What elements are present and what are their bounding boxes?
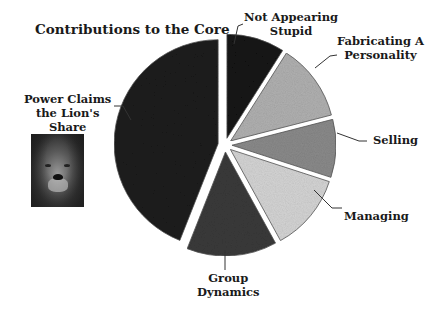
label-line: Stupid: [244, 24, 338, 38]
label-group-dynamics: Group Dynamics: [197, 271, 259, 299]
label-fabricating-a-personality: Fabricating A Personality: [337, 34, 424, 62]
label-line: Power Claims: [24, 92, 111, 106]
label-line: Group: [197, 271, 259, 285]
label-managing: Managing: [344, 209, 409, 223]
lion-nose: [53, 174, 63, 180]
lion-image: [31, 134, 84, 207]
label-line: Fabricating A: [337, 34, 424, 48]
lion-eye: [64, 164, 70, 167]
pie-slices: [114, 34, 336, 256]
label-line: the Lion's: [24, 106, 111, 120]
label-not-appearing-stupid: Not Appearing Stupid: [244, 10, 338, 38]
label-line: Share: [24, 120, 111, 134]
label-line: Not Appearing: [244, 10, 338, 24]
label-power: Power Claims the Lion's Share: [24, 92, 111, 134]
lion-eye: [45, 164, 51, 167]
lion-muzzle: [48, 178, 68, 192]
label-line: Dynamics: [197, 285, 259, 299]
label-selling: Selling: [373, 133, 418, 147]
label-line: Personality: [337, 48, 424, 62]
lion-mane: [31, 134, 84, 207]
